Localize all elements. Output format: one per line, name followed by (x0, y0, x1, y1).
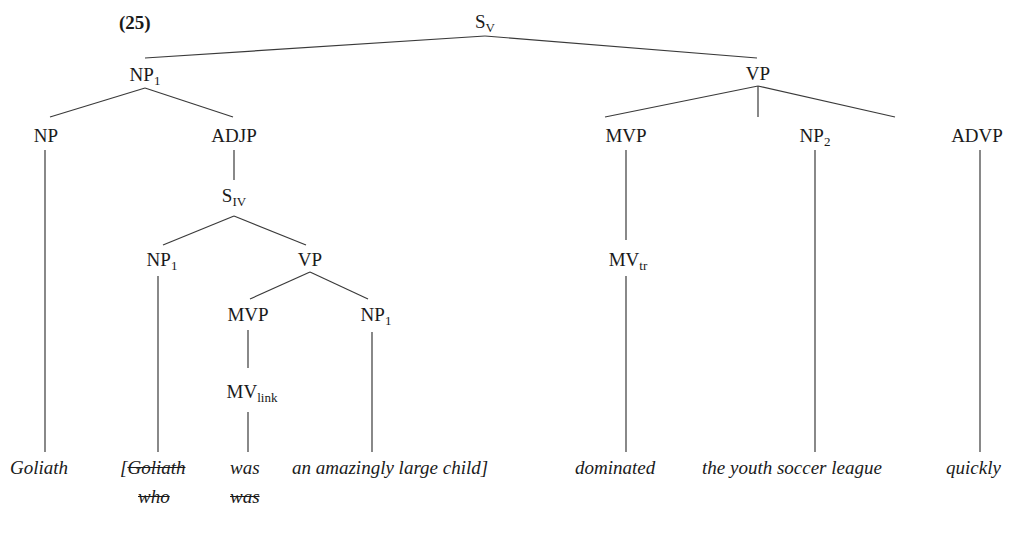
example-number: (25) (119, 12, 151, 34)
node-np1-relative: NP1 (147, 250, 178, 269)
word-was-deleted: was (230, 487, 260, 506)
word-relative-start: [Goliath (120, 458, 185, 477)
word-direct-object: the youth soccer league (702, 458, 882, 477)
node-mvp-main: MVP (605, 126, 646, 145)
node-mv-tr: MVtr (609, 250, 648, 269)
node-mv-link: MVlink (227, 382, 278, 401)
node-s-iv: SIV (222, 186, 246, 205)
word-who-deleted: who (138, 487, 170, 506)
word-predicate-nominative: an amazingly large child] (292, 458, 488, 477)
node-np1-predicate: NP1 (361, 305, 392, 324)
word-goliath: Goliath (10, 458, 68, 477)
node-vp-main: VP (746, 64, 770, 83)
word-dominated: dominated (575, 458, 655, 477)
node-adjp: ADJP (211, 126, 256, 145)
word-was: was (230, 458, 260, 477)
node-s-v: SV (475, 12, 495, 31)
node-mvp-relative: MVP (227, 305, 268, 324)
node-advp: ADVP (951, 126, 1003, 145)
node-vp-relative: VP (298, 250, 322, 269)
node-np1-subject: NP1 (130, 65, 161, 84)
node-np2: NP2 (800, 126, 831, 145)
node-np: NP (34, 126, 58, 145)
word-quickly: quickly (946, 458, 1001, 477)
